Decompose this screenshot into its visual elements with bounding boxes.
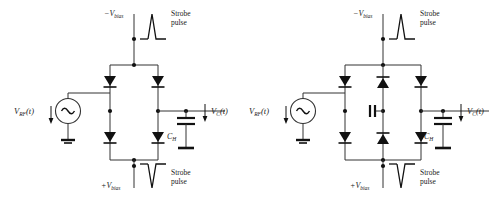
left-circuit: −Vbias Strobe pulse xyxy=(14,9,228,191)
rf-source-arrow-right xyxy=(284,106,289,124)
diode-lower-middle xyxy=(377,133,390,144)
rf-source-right xyxy=(291,93,346,143)
top-strobe-label-line1-left: Strobe xyxy=(171,9,191,18)
rf-source-label-left: VRF(t) xyxy=(14,106,34,117)
bottom-strobe-label-line1-left: Strobe xyxy=(171,168,191,177)
top-bias-rail-right xyxy=(381,14,385,65)
bottom-strobe-label-line1-right: Strobe xyxy=(420,168,440,177)
output-arrow-left xyxy=(203,104,208,122)
figure-canvas: −Vbias Strobe pulse xyxy=(0,0,499,199)
bridge-right xyxy=(339,63,428,162)
output-arrow-right xyxy=(459,104,464,122)
diode-upper-right xyxy=(415,76,428,87)
diode-upper-middle xyxy=(377,77,390,88)
circuit-diagram-figure: −Vbias Strobe pulse xyxy=(0,0,499,199)
diode-upper-right xyxy=(152,76,165,87)
center-capacitor-right xyxy=(370,105,383,117)
bottom-strobe-waveform-right xyxy=(389,164,415,188)
rf-source-label-right: VRF(t) xyxy=(249,106,269,117)
rf-source-arrow-left xyxy=(49,106,54,124)
diode-upper-left xyxy=(104,76,117,87)
ground-symbol-left xyxy=(61,140,75,143)
bottom-bias-rail-right xyxy=(381,160,385,188)
bottom-bias-label-right: +Vbias xyxy=(350,181,369,191)
right-circuit: −Vbias Strobe pulse xyxy=(249,9,489,191)
top-bias-label-left: −Vbias xyxy=(104,9,123,19)
diode-upper-left xyxy=(339,76,352,87)
bottom-strobe-waveform-left xyxy=(140,164,166,188)
top-strobe-waveform-right xyxy=(389,14,415,39)
rf-source-left xyxy=(56,93,111,143)
top-strobe-label-line2-left: pulse xyxy=(171,18,188,27)
top-bias-label-right: −Vbias xyxy=(353,9,372,19)
hold-capacitor-label-left: CH xyxy=(167,132,177,142)
diode-lower-right xyxy=(152,132,165,143)
bottom-bias-rail-left xyxy=(132,160,136,188)
bottom-bias-label-left: +Vbias xyxy=(101,181,120,191)
bridge-left xyxy=(104,63,165,162)
diode-lower-left xyxy=(339,132,352,143)
top-strobe-label-line2-right: pulse xyxy=(420,18,437,27)
ground-symbol-right xyxy=(296,140,310,143)
node-dot xyxy=(132,37,136,41)
top-strobe-waveform-left xyxy=(140,14,166,39)
top-bias-rail-left xyxy=(132,14,136,65)
hold-capacitor-label-right: CH xyxy=(424,132,434,142)
diode-lower-left xyxy=(104,132,117,143)
bottom-strobe-label-line2-left: pulse xyxy=(171,177,188,186)
bottom-strobe-label-line2-right: pulse xyxy=(420,177,437,186)
output-voltage-label-right: VC(t) xyxy=(467,106,484,117)
output-voltage-label-left: VC(t) xyxy=(211,106,228,117)
top-strobe-label-line1-right: Strobe xyxy=(420,9,440,18)
